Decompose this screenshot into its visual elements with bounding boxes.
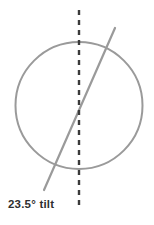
tilt-angle-label: 23.5° tilt: [8, 197, 54, 211]
diagram-canvas: [0, 0, 154, 225]
tilt-diagram-figure: 23.5° tilt: [0, 0, 154, 225]
